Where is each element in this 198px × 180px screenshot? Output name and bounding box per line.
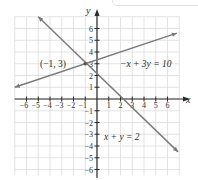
y-axis-label: y	[85, 5, 91, 16]
y-tick-label: −5	[84, 154, 93, 163]
x-tick-label: −3	[55, 101, 64, 110]
x-tick-label: −5	[31, 101, 40, 110]
intersection-point-label: (−1, 3)	[40, 59, 66, 70]
line-arrow-icon	[171, 33, 176, 37]
x-tick-label: −4	[43, 101, 52, 110]
x-tick-label: 6	[166, 101, 170, 110]
line-arrow-icon	[15, 84, 20, 88]
y-tick-label: −3	[84, 130, 93, 139]
y-axis-arrow-icon	[95, 9, 100, 16]
y-tick-label: −6	[84, 166, 93, 175]
x-tick-label: 5	[154, 101, 158, 110]
x-tick-label: 4	[142, 101, 146, 110]
equation-label-line1: −x + 3y = 10	[120, 59, 172, 69]
y-tick-label: −1	[84, 107, 93, 116]
x-tick-label: −2	[67, 101, 76, 110]
y-tick-label: 2	[89, 72, 93, 81]
y-tick-label: 1	[89, 83, 93, 92]
x-axis-label: x	[185, 94, 191, 105]
y-tick-label: −2	[84, 119, 93, 128]
axes	[15, 9, 190, 178]
y-tick-label: 5	[89, 36, 93, 45]
x-tick-label: 2	[119, 101, 123, 110]
equation-label-line2: x + y = 2	[103, 132, 140, 142]
x-tick-label: 1	[107, 101, 111, 110]
y-tick-label: 4	[89, 48, 93, 57]
annotations	[83, 62, 87, 66]
x-tick-label: −6	[20, 101, 29, 110]
y-tick-label: 6	[89, 25, 93, 34]
intersection-point-dot	[83, 62, 87, 66]
coordinate-plane: −6−5−4−3−2−1123456−6−5−4−3−2−1123456 x y…	[0, 0, 198, 180]
y-tick-label: −4	[84, 142, 93, 151]
